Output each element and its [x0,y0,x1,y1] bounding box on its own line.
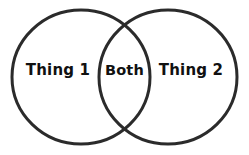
venn-label-right: Thing 2 [149,62,233,78]
venn-label-overlap: Both [100,62,149,78]
venn-diagram-figure: Thing 1 Both Thing 2 [0,0,249,155]
venn-label-left: Thing 1 [16,62,100,78]
